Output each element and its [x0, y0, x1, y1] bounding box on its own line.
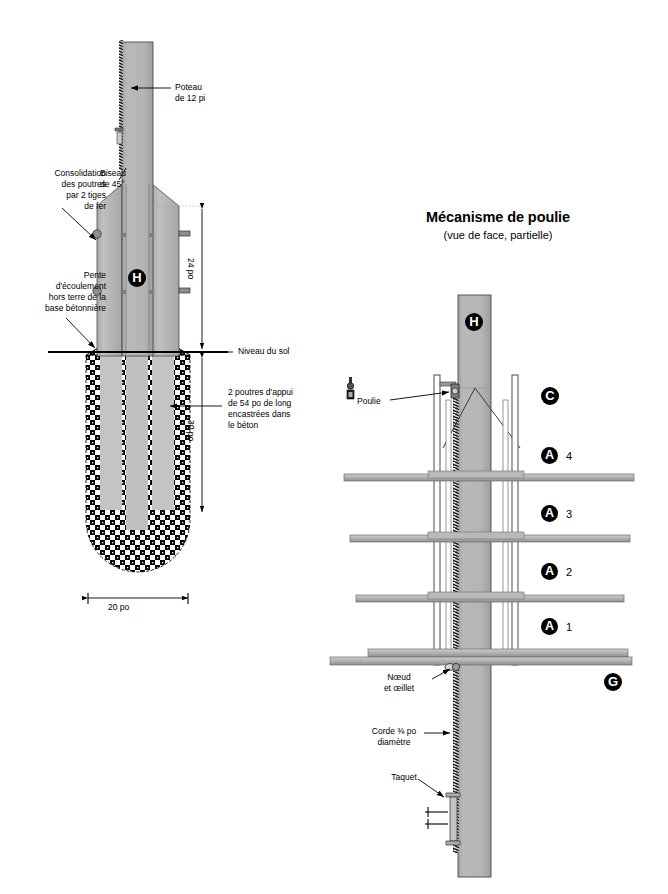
marker-h-post-right: H — [465, 313, 483, 331]
right-diagram-title: Mécanisme de poulie — [388, 209, 608, 225]
pulley-post — [458, 295, 491, 877]
post-fitting-plate — [117, 132, 122, 144]
dimension-label-24po: 24 po — [186, 258, 196, 279]
marker-a-level-4: A — [541, 447, 558, 464]
dimension-label-20po: 20 po — [108, 602, 168, 612]
pulley-sheave — [452, 388, 458, 394]
marker-a-level-3-number: 3 — [566, 509, 572, 520]
marker-a-level-3: A — [541, 505, 558, 522]
beam-right — [152, 184, 179, 356]
dimension-label-30po: 30 po — [186, 420, 196, 441]
label-pente: Pente d'écoulement hors terre de la base… — [14, 270, 106, 314]
label-poteau: Poteau de 12 pi — [175, 82, 205, 104]
marker-a-level-1-number: 1 — [566, 622, 572, 633]
marker-a-level-2-number: 2 — [566, 567, 572, 578]
post-embedded — [126, 355, 148, 530]
post-fitting — [115, 128, 123, 131]
diagram-artwork — [0, 0, 668, 894]
label-biseau: Biseau de 45° — [100, 168, 126, 190]
left-diagram-group — [48, 40, 233, 604]
leader-knot — [432, 669, 450, 679]
marker-g-base-platform: G — [604, 673, 622, 691]
right-diagram-group — [330, 295, 634, 877]
rail-right-outer — [512, 375, 518, 665]
label-consolidation: Consolidation des poutres par 2 tiges de… — [16, 168, 106, 212]
shelf-level-1-upper — [368, 649, 628, 657]
rail-left-inner — [446, 400, 451, 660]
diagram-page: Poteau de 12 pi Consolidation des poutre… — [0, 0, 668, 894]
rail-left-outer — [434, 375, 440, 665]
right-diagram-subtitle: (vue de face, partielle) — [388, 229, 608, 241]
marker-c-rail: C — [541, 387, 559, 405]
label-noeud-oeillet: Nœud et œillet — [366, 672, 432, 694]
marker-a-level-1: A — [541, 618, 558, 635]
label-taquet: Taquet — [378, 772, 430, 783]
marker-h-post-left: H — [128, 269, 146, 287]
rope-on-post — [119, 40, 123, 170]
iron-rod-right-lower — [179, 288, 190, 293]
label-poutres-appui: 2 poutres d'appui de 54 po de long encas… — [228, 387, 293, 431]
leader-slope — [66, 318, 95, 348]
iron-rod-right-upper — [179, 231, 190, 236]
platform-base-g — [330, 657, 632, 665]
label-poulie: Poulie — [357, 396, 381, 407]
cleat-body — [450, 797, 457, 841]
iron-rod-bolt-left-upper — [93, 230, 101, 238]
rope-main — [453, 388, 459, 853]
marker-a-level-4-number: 4 — [566, 451, 572, 462]
post-12ft — [122, 42, 153, 356]
label-corde: Corde ⅜ po diamètre — [358, 726, 430, 748]
beam-left-embedded — [100, 355, 122, 510]
knot — [452, 663, 459, 670]
rail-right-inner — [503, 400, 508, 660]
label-niveau-du-sol: Niveau du sol — [238, 346, 290, 357]
cleat-upper-arm — [446, 793, 460, 797]
cleat-lower-arm — [446, 841, 460, 845]
marker-a-level-2: A — [541, 563, 558, 580]
leader-rods — [62, 208, 96, 240]
pulley-icon-glyph — [347, 377, 354, 399]
beam-right-embedded — [152, 355, 174, 510]
